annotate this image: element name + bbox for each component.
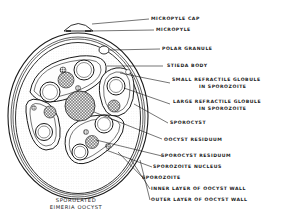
label-sporozoite: SPOROZOITE bbox=[142, 175, 181, 181]
caption-line1: SPORULATED bbox=[36, 197, 116, 204]
label-micropyle: MICROPYLE bbox=[156, 27, 191, 33]
label-small-refractile-globule-line1: SMALL REFRACTILE GLOBULE bbox=[172, 77, 261, 83]
label-micropyle-cap: MICROPYLE CAP bbox=[151, 16, 200, 22]
caption-line2: EIMERIA OOCYST bbox=[36, 204, 116, 211]
label-inner-layer-oocyst-wall: INNER LAYER OF OOCYST WALL bbox=[151, 186, 246, 192]
sporocyst-2 bbox=[99, 68, 134, 116]
label-oocyst-residuum: OOCYST RESIDUUM bbox=[164, 137, 222, 143]
label-outer-layer-oocyst-wall: OUTER LAYER OF OOCYST WALL bbox=[151, 197, 247, 203]
label-small-refractile-globule-line2: IN SPOROZOITE bbox=[199, 84, 247, 90]
oocyst-residuum-shape bbox=[65, 91, 95, 121]
oocyst-illustration bbox=[0, 0, 300, 221]
label-large-refractile-globule-line2: IN SPOROZOITE bbox=[199, 106, 247, 112]
micropyle-cap-shape bbox=[64, 24, 93, 32]
label-sporocyst: SPOROCYST bbox=[170, 120, 206, 126]
figure-caption: SPORULATED EIMERIA OOCYST bbox=[36, 197, 116, 211]
label-sporozoite-nucleus: SPOROZOITE NUCLEUS bbox=[153, 164, 222, 170]
label-large-refractile-globule-line1: LARGE REFRACTILE GLOBULE bbox=[173, 99, 261, 105]
eimeria-oocyst-diagram: MICROPYLE CAP MICROPYLE POLAR GRANULE ST… bbox=[0, 0, 300, 221]
label-sporocyst-residuum: SPOROCYST RESIDUUM bbox=[161, 153, 231, 159]
label-stieda-body: STIEDA BODY bbox=[167, 63, 208, 69]
label-polar-granule: POLAR GRANULE bbox=[162, 46, 213, 52]
